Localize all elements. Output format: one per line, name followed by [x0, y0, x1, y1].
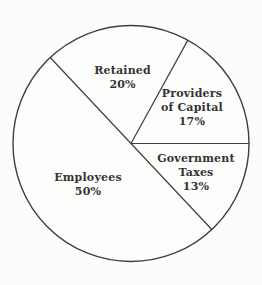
pie-chart: Providersof Capital17%Retained20%Employe… — [0, 0, 262, 285]
scanned-chart-page: Providersof Capital17%Retained20%Employe… — [0, 0, 262, 285]
